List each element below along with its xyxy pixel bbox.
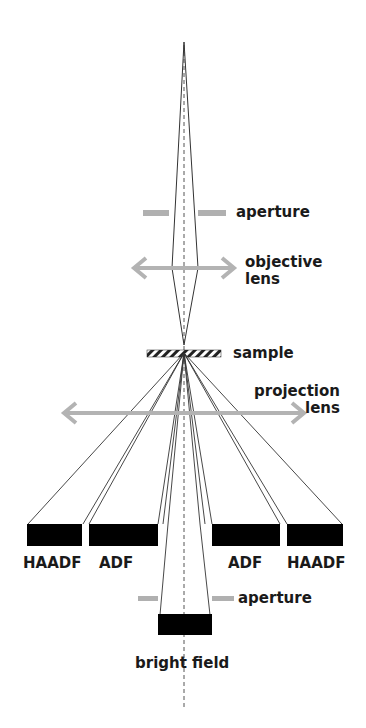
projection-lens-label-line1: projection — [254, 382, 340, 400]
projection-lens-label: projection lens — [254, 383, 340, 417]
adf-right-label: ADF — [228, 555, 262, 572]
aperture-top-label: aperture — [236, 204, 310, 221]
bright-field-detector — [158, 614, 212, 635]
incoming-beam — [172, 42, 198, 345]
objective-lens-label-line1: objective — [245, 253, 323, 271]
bright-field-label: bright field — [135, 655, 229, 672]
haadf-left-label: HAADF — [23, 555, 81, 572]
sample-label: sample — [233, 345, 294, 362]
bottom-aperture — [138, 596, 234, 601]
stem-diagram — [0, 0, 366, 728]
objective-lens-arrow — [134, 258, 234, 278]
haadf-right-label: HAADF — [287, 555, 345, 572]
objective-lens-label: objective lens — [245, 254, 323, 288]
adf-right-detector — [212, 524, 280, 546]
haadf-left-detector — [27, 524, 82, 546]
projection-lens-label-line2: lens — [305, 399, 340, 417]
adf-left-label: ADF — [99, 555, 133, 572]
aperture-bottom-label: aperture — [238, 590, 312, 607]
objective-lens-label-line2: lens — [245, 270, 280, 288]
adf-left-detector — [89, 524, 158, 546]
haadf-right-detector — [287, 524, 343, 546]
